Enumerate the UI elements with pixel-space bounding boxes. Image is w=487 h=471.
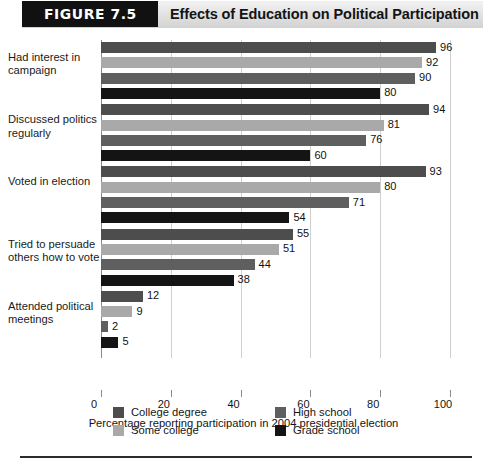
bar [101,166,426,177]
bar-value-label: 2 [112,321,118,332]
legend-swatch-icon [275,425,286,436]
bar [101,73,415,84]
chart-legend: College degreeHigh schoolSome collegeGra… [0,404,487,440]
bar-value-label: 80 [384,87,396,98]
x-tick-mark [171,390,172,397]
bar [101,275,234,286]
legend-label: High school [293,406,351,418]
legend-item[interactable]: Grade school [275,424,360,436]
bar-value-label: 51 [283,243,295,254]
bar-value-label: 92 [426,57,438,68]
bar-value-label: 76 [370,134,382,145]
legend-swatch-icon [113,425,124,436]
bar-value-label: 5 [122,336,128,347]
bar-value-label: 12 [147,290,159,301]
bar [101,212,289,223]
bar [101,244,279,255]
legend-label: Grade school [293,424,360,436]
bar-value-label: 80 [384,181,396,192]
bar [101,197,349,208]
bar-value-label: 81 [388,119,400,130]
bar [101,306,132,317]
bar [101,259,255,270]
bottom-divider [20,456,472,458]
figure-header: FIGURE 7.5 Effects of Education on Polit… [0,0,487,30]
category-label: Attended political meetings [8,300,100,327]
bar-value-label: 96 [440,42,452,53]
legend-swatch-icon [113,407,124,418]
bar-value-label: 93 [430,166,442,177]
x-tick-mark [101,390,102,397]
x-tick-mark [380,390,381,397]
legend-label: College degree [131,406,207,418]
legend-item[interactable]: College degree [113,406,207,418]
bar [101,120,384,131]
x-tick-mark [450,390,451,397]
bar-value-label: 44 [259,259,271,270]
bar [101,229,293,240]
bar-value-label: 90 [419,72,431,83]
bar [101,42,436,53]
bar [101,88,380,99]
gridline [450,40,451,358]
category-label: Discussed politics regularly [8,113,100,140]
bar-value-label: 9 [136,306,142,317]
bar-value-label: 71 [353,197,365,208]
category-label: Had interest in campaign [8,51,100,78]
bar [101,57,422,68]
x-tick-mark [241,390,242,397]
legend-label: Some college [131,424,199,436]
bar [101,291,143,302]
x-tick-mark [310,390,311,397]
legend-item[interactable]: High school [275,406,351,418]
legend-item[interactable]: Some college [113,424,199,436]
category-label: Tried to persuade others how to vote [8,238,100,265]
bar [101,321,108,332]
bar-value-label: 94 [433,104,445,115]
figure-page: FIGURE 7.5 Effects of Education on Polit… [0,0,487,471]
figure-number-badge: FIGURE 7.5 [22,1,158,27]
figure-number-label: FIGURE 7.5 [44,6,137,22]
figure-title: Effects of Education on Political Partic… [170,1,479,27]
category-label: Voted in election [8,175,100,188]
bar [101,135,366,146]
bar-value-label: 55 [297,228,309,239]
bar-value-label: 54 [293,212,305,223]
bar-chart: Had interest in campaignDiscussed politi… [0,34,487,364]
bar-value-label: 60 [314,150,326,161]
bar-value-label: 38 [238,274,250,285]
legend-swatch-icon [275,407,286,418]
bar [101,337,118,348]
bar [101,150,310,161]
gridline [380,40,381,358]
bar [101,182,380,193]
bar [101,104,429,115]
